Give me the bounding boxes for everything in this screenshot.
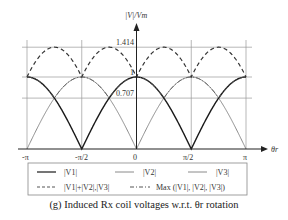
- legend-label-v3: |V3|: [216, 168, 229, 177]
- y-axis-arrow-icon: [134, 23, 140, 31]
- y-tick-1414: 1.414: [116, 38, 134, 47]
- x-tick-zero: 0: [133, 153, 137, 162]
- axis-labels: |V|/Vm θr 1.414 1 0.707 -π -π/2 0 π/2 π: [22, 11, 279, 162]
- axes: [18, 23, 268, 152]
- x-tick-neg-pi: -π: [22, 153, 29, 162]
- x-tick-pi: π: [243, 153, 247, 162]
- y-tick-1: 1: [130, 68, 134, 77]
- y-axis-label: |V|/Vm: [125, 11, 147, 20]
- x-axis-arrow-icon: [261, 146, 268, 152]
- x-tick-neg-half-pi: -π/2: [75, 153, 88, 162]
- legend-label-max: Max (|V1|, |V2|, |V3|): [156, 183, 225, 192]
- chart-canvas: |V|/Vm θr 1.414 1 0.707 -π -π/2 0 π/2 π …: [0, 0, 288, 220]
- figure-caption: (g) Induced Rx coil voltages w.r.t. θr r…: [0, 199, 288, 210]
- x-axis-label: θr: [271, 145, 279, 154]
- legend-label-v2: |V2|: [143, 168, 156, 177]
- y-tick-0707: 0.707: [116, 89, 134, 98]
- legend-label-v1: |V1|: [64, 168, 77, 177]
- x-tick-half-pi: π/2: [183, 153, 193, 162]
- legend: |V1| |V2| |V3| |V1|+|V2|,|V3| Max (|V1|,…: [28, 163, 247, 195]
- legend-label-sum: |V1|+|V2|,|V3|: [64, 183, 109, 192]
